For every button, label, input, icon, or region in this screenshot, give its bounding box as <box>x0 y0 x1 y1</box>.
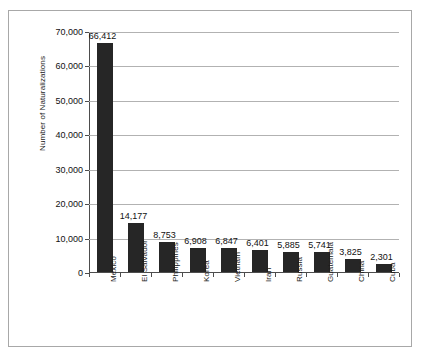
y-tick-label: 30,000 <box>55 165 83 175</box>
x-tick-mark <box>120 273 121 277</box>
y-tick-label: 50,000 <box>55 96 83 106</box>
x-tick-mark <box>368 273 369 277</box>
bar-value-label: 3,825 <box>339 247 362 257</box>
x-tick-mark <box>337 273 338 277</box>
gridline <box>89 170 399 171</box>
x-tick-mark <box>244 273 245 277</box>
y-tick-label: 20,000 <box>55 199 83 209</box>
x-tick-mark <box>89 273 90 277</box>
y-tick-label: 0 <box>78 268 83 278</box>
x-category-label: Korea <box>202 260 211 282</box>
chart-frame: Number of Naturalizations 70,00060,00050… <box>8 10 412 347</box>
x-tick-mark <box>275 273 276 277</box>
bar-value-label: 6,401 <box>246 238 269 248</box>
y-axis-line <box>89 32 90 273</box>
y-tick-mark <box>85 204 89 205</box>
plot-area: 70,00060,00050,00040,00030,00020,00010,0… <box>89 32 399 273</box>
bar-value-label: 6,908 <box>184 236 207 246</box>
bar <box>97 43 113 272</box>
y-tick-label: 60,000 <box>55 61 83 71</box>
x-category-label: Guatemala <box>326 242 335 282</box>
x-category-label: El Salvador <box>140 240 149 282</box>
x-category-label: Vietnam <box>233 252 242 282</box>
gridline <box>89 204 399 205</box>
y-tick-mark <box>85 101 89 102</box>
x-tick-mark <box>182 273 183 277</box>
bar-value-label: 66,412 <box>89 31 117 41</box>
gridline <box>89 32 399 33</box>
x-tick-mark <box>213 273 214 277</box>
x-category-label: Mexico <box>109 256 118 282</box>
y-tick-label: 70,000 <box>55 27 83 37</box>
x-category-label: Iran <box>264 268 273 282</box>
y-tick-label: 10,000 <box>55 234 83 244</box>
x-category-label: Russia <box>295 257 304 282</box>
y-tick-mark <box>85 170 89 171</box>
x-category-label: China <box>357 261 366 282</box>
gridline <box>89 66 399 67</box>
y-tick-mark <box>85 135 89 136</box>
y-tick-mark <box>85 66 89 67</box>
bar-value-label: 6,847 <box>215 236 238 246</box>
x-category-label: Philippines <box>171 242 180 282</box>
y-tick-label: 40,000 <box>55 130 83 140</box>
gridline <box>89 101 399 102</box>
bar-value-label: 2,301 <box>370 252 393 262</box>
x-category-label: Cuba <box>388 262 397 282</box>
bar-value-label: 8,753 <box>153 230 176 240</box>
gridline <box>89 135 399 136</box>
y-axis-title: Number of Naturalizations <box>38 19 47 189</box>
x-tick-mark <box>151 273 152 277</box>
x-tick-mark <box>306 273 307 277</box>
y-tick-mark <box>85 239 89 240</box>
bar-value-label: 14,177 <box>120 211 148 221</box>
bar-value-label: 5,885 <box>277 240 300 250</box>
x-tick-mark <box>399 273 400 277</box>
